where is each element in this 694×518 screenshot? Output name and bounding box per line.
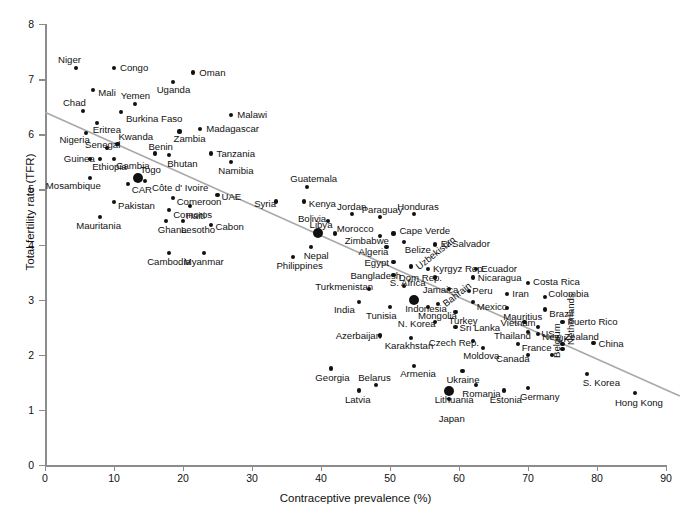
data-point[interactable]: [119, 110, 123, 114]
data-point[interactable]: [329, 366, 333, 370]
data-point[interactable]: [378, 215, 382, 219]
data-point[interactable]: [309, 245, 313, 249]
data-point[interactable]: [460, 369, 464, 373]
point-label: Czech Rep.: [429, 338, 479, 348]
x-tick-label: 0: [32, 472, 58, 484]
data-point[interactable]: [633, 391, 637, 395]
data-point[interactable]: [167, 208, 171, 212]
data-point[interactable]: [516, 342, 520, 346]
data-point[interactable]: [426, 267, 430, 271]
data-point[interactable]: [291, 255, 295, 259]
point-label: France: [522, 343, 552, 353]
trend-line: [0, 0, 694, 518]
point-label: Yemen: [121, 91, 151, 101]
point-label: Mosambique: [46, 181, 101, 191]
data-point[interactable]: [191, 70, 195, 74]
data-point[interactable]: [357, 388, 361, 392]
point-label: Estonia: [490, 395, 522, 405]
data-point[interactable]: [505, 292, 509, 296]
data-point[interactable]: [388, 305, 392, 309]
data-point[interactable]: [471, 275, 475, 279]
data-point[interactable]: [543, 295, 547, 299]
point-label: Egypt: [364, 258, 389, 268]
point-label: Canada: [496, 354, 530, 364]
data-point[interactable]: [112, 200, 116, 204]
data-point[interactable]: [153, 151, 157, 155]
x-tick: [597, 465, 598, 471]
data-point[interactable]: [229, 160, 233, 164]
point-label: Uganda: [157, 85, 191, 95]
data-point[interactable]: [81, 109, 85, 113]
data-point[interactable]: [447, 397, 451, 401]
data-point[interactable]: [167, 251, 171, 255]
data-point[interactable]: [526, 386, 530, 390]
x-tick: [666, 465, 667, 471]
data-point[interactable]: [229, 113, 233, 117]
data-point[interactable]: [560, 347, 564, 351]
data-point[interactable]: [305, 185, 309, 189]
point-label: Oman: [199, 68, 225, 78]
data-point[interactable]: [209, 223, 213, 227]
data-point[interactable]: [171, 196, 175, 200]
data-point[interactable]: [543, 307, 547, 311]
y-tick: [39, 189, 45, 190]
data-point[interactable]: [585, 372, 589, 376]
y-tick-label: 8: [14, 19, 34, 29]
data-point[interactable]: [357, 300, 361, 304]
data-point[interactable]: [209, 151, 213, 155]
data-point[interactable]: [505, 306, 509, 310]
y-tick: [39, 79, 45, 80]
y-axis-line: [45, 24, 47, 466]
data-point[interactable]: [374, 383, 378, 387]
point-label: Nicaragua: [478, 273, 522, 283]
source-caption: [430, 505, 694, 517]
point-label: Vietnam: [501, 318, 536, 328]
data-point[interactable]: [350, 212, 354, 216]
data-point[interactable]: [474, 383, 478, 387]
x-tick: [252, 465, 253, 471]
data-point[interactable]: [112, 66, 116, 70]
data-point[interactable]: [409, 264, 413, 268]
data-point[interactable]: [126, 182, 130, 186]
data-point[interactable]: [471, 300, 475, 304]
data-point[interactable]: [426, 305, 430, 309]
data-point[interactable]: [591, 341, 595, 345]
data-point[interactable]: [302, 199, 306, 203]
data-point[interactable]: [412, 212, 416, 216]
point-label: Zimbabwe: [345, 236, 389, 246]
data-point[interactable]: [391, 260, 395, 264]
data-point[interactable]: [453, 325, 457, 329]
point-label: Chad: [63, 98, 86, 108]
y-tick: [39, 300, 45, 301]
data-point[interactable]: [181, 219, 185, 223]
data-point[interactable]: [198, 127, 202, 131]
y-tick: [39, 355, 45, 356]
data-point[interactable]: [143, 179, 147, 183]
data-point[interactable]: [188, 204, 192, 208]
data-point[interactable]: [536, 332, 540, 336]
data-point[interactable]: [536, 325, 540, 329]
x-tick-label: 60: [446, 472, 472, 484]
y-tick: [39, 24, 45, 25]
data-point[interactable]: [202, 251, 206, 255]
data-point[interactable]: [391, 231, 395, 235]
point-label: Mauritania: [76, 221, 121, 231]
data-point[interactable]: [453, 310, 457, 314]
data-point[interactable]: [502, 388, 506, 392]
data-point[interactable]: [164, 219, 168, 223]
data-point[interactable]: [133, 102, 137, 106]
data-point[interactable]: [98, 215, 102, 219]
point-label: Peru: [472, 286, 492, 296]
x-tick: [45, 465, 46, 471]
point-label: Honduras: [397, 202, 439, 212]
point-label: Morocco: [337, 224, 374, 234]
point-label: Tunisia: [366, 311, 397, 321]
data-point[interactable]: [91, 88, 95, 92]
point-label: CAR: [132, 185, 152, 195]
data-point[interactable]: [526, 281, 530, 285]
data-point[interactable]: [167, 153, 171, 157]
point-label: Ethiopia: [92, 162, 127, 172]
data-point[interactable]: [74, 66, 78, 70]
point-label: Benin: [148, 142, 173, 152]
point-label: Philippines: [276, 261, 322, 271]
